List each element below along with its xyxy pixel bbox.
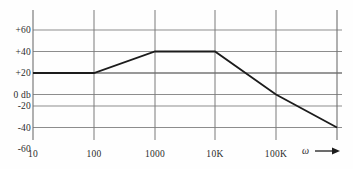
x-axis-tick-labels: 10 100 1000 10K 100K ω — [0, 0, 353, 169]
omega-axis-label: ω — [302, 145, 309, 156]
x-tick-label-100: 100 — [86, 149, 101, 160]
bode-plot-figure: +60 +40 +20 0 db -20 -40 -60 10 100 1000… — [0, 0, 353, 169]
x-tick-label-100k: 100K — [265, 149, 287, 160]
x-tick-label-10: 10 — [28, 149, 38, 160]
x-tick-label-10k: 10K — [206, 149, 223, 160]
x-tick-label-1000: 1000 — [145, 149, 165, 160]
